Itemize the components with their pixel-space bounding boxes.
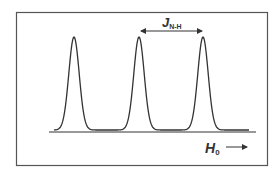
- diagram-canvas: JN-H H0: [0, 0, 280, 175]
- spectrum-curve: [54, 37, 249, 130]
- coupling-label: JN-H: [162, 15, 182, 30]
- figure-frame: [17, 13, 268, 166]
- field-label: H0: [205, 140, 220, 157]
- nmr-triplet-diagram: JN-H H0: [0, 0, 280, 175]
